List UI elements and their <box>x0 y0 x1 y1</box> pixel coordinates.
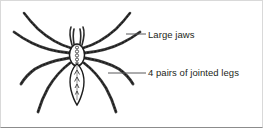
leg-left-4 <box>38 63 70 112</box>
label-four-pairs-of-jointed-legs: 4 pairs of jointed legs <box>148 67 239 78</box>
leg-right-4 <box>84 63 116 112</box>
spider-cephalothorax <box>70 44 85 66</box>
spider-diagram-figure: Large jaws 4 pairs of jointed legs <box>0 0 263 128</box>
leg-left-2 <box>14 32 70 53</box>
label-large-jaws: Large jaws <box>148 29 194 40</box>
spider-illustration <box>0 0 263 128</box>
spider-chelicerae <box>70 27 84 45</box>
spider-abdomen <box>70 64 84 105</box>
leg-right-2 <box>84 32 140 53</box>
